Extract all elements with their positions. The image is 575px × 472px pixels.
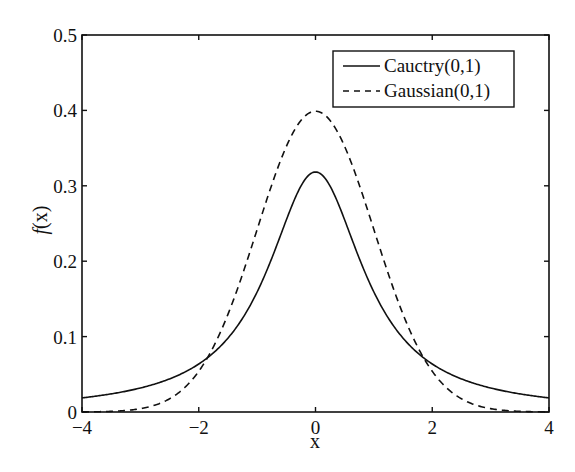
y-tick-label: 0 [68,402,78,423]
y-axis-label-x: (x) [29,206,52,229]
y-tick-label: 0.5 [53,25,77,46]
x-tick-label: −2 [189,417,209,438]
chart: −4−2024 00.10.20.30.40.5 x f(x) Cauctry(… [0,0,575,472]
series-line-cauchy [82,172,549,398]
legend: Cauctry(0,1) Gaussian(0,1) [333,51,514,107]
x-tick-label: 2 [428,417,438,438]
plot-lines [82,111,549,412]
y-tick-label: 0.1 [53,327,77,348]
y-tick-label: 0.2 [53,251,77,272]
x-axis-label: x [310,430,320,452]
x-tick-label: 4 [544,417,554,438]
series-line-gaussian [82,111,549,412]
y-tick-label: 0.3 [53,176,77,197]
y-axis-label: f(x) [29,206,52,235]
y-tick-label: 0.4 [53,100,77,121]
legend-label-gaussian: Gaussian(0,1) [384,80,490,102]
legend-label-cauchy: Cauctry(0,1) [384,55,481,77]
